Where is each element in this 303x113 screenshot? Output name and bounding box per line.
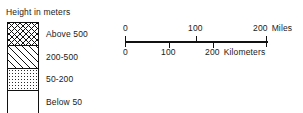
scale-unit-kilometers: Kilometers (224, 47, 266, 57)
scale-unit-miles: Miles (272, 23, 293, 33)
legend-label-below-50: Below 50 (46, 97, 82, 107)
scale-tick-miles-100 (196, 36, 197, 42)
scale-label-miles-0: 0 (123, 23, 128, 33)
legend-swatch-above-500 (8, 23, 38, 46)
legend: Height in meters Above 500 200-500 50-20… (0, 0, 112, 113)
scale-bar-endcap-left (125, 36, 126, 47)
legend-swatch-200-500 (8, 46, 38, 69)
legend-label-50-200: 50-200 (46, 74, 73, 84)
scale-bar-endcap-right (266, 36, 267, 47)
legend-label-200-500: 200-500 (46, 52, 78, 62)
scale-label-km-100: 100 (161, 47, 176, 57)
scale-label-km-0: 0 (123, 47, 128, 57)
legend-swatch-below-50 (8, 91, 38, 113)
legend-label-above-500: Above 500 (46, 29, 88, 39)
legend-swatch-50-200 (8, 69, 38, 92)
scale-label-miles-200: 200 (253, 23, 268, 33)
legend-title: Height in meters (6, 7, 70, 17)
legend-swatch-column (7, 22, 39, 113)
scale-bar: 0 100 200Miles 0 100 200Kilometers (112, 0, 303, 113)
scale-label-miles-100: 100 (188, 23, 203, 33)
map-legend-and-scale: Height in meters Above 500 200-500 50-20… (0, 0, 303, 113)
scale-label-km-200: 200 (205, 47, 220, 57)
